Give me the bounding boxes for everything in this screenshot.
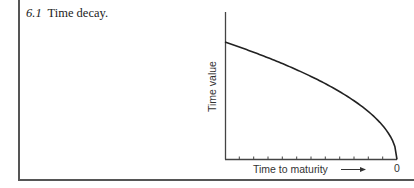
right-arrow-icon <box>341 167 366 172</box>
time-decay-chart: Time value Time to maturity 0 <box>0 0 414 188</box>
y-axis-label: Time value <box>206 61 218 112</box>
x-tick-label-zero: 0 <box>394 162 400 174</box>
time-value-curve <box>225 42 397 160</box>
x-axis-label: Time to maturity <box>253 163 329 175</box>
